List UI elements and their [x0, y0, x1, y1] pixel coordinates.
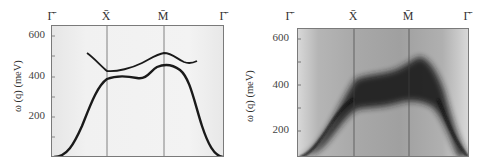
left-dispersion-curves: [52, 26, 224, 157]
right-plot-area: [297, 28, 469, 157]
right-point-gamma-start: Γ̄: [281, 9, 297, 24]
left-y-tick-600: 600: [21, 28, 45, 40]
left-plot-area: [51, 25, 224, 157]
right-point-gamma-end: Γ̄: [459, 9, 475, 24]
right-y-tick-200: 200: [265, 123, 289, 135]
right-y-axis-label: ω (q) (meV): [244, 70, 255, 122]
left-chart: ω (q) (meV) 600 400 200 Γ̄ X̄ M̄ Γ̄: [0, 0, 241, 166]
left-point-gamma-end: Γ̄: [215, 9, 231, 24]
right-point-m: M̄: [400, 9, 416, 24]
right-y-tick-600: 600: [265, 31, 289, 43]
left-point-x: X̄: [98, 9, 114, 24]
left-y-axis-label: ω (q) (meV): [12, 60, 23, 112]
right-y-tick-400: 400: [265, 78, 289, 90]
right-chart: ω (q) (meV) 600 400 200 Γ̄ X̄ M̄ Γ̄: [241, 0, 482, 166]
right-intensity-map: [298, 29, 469, 157]
left-point-gamma-start: Γ̄: [43, 9, 59, 24]
left-y-tick-200: 200: [21, 109, 45, 121]
right-point-x: X̄: [345, 9, 361, 24]
left-y-tick-400: 400: [21, 69, 45, 81]
left-point-m: M̄: [155, 9, 171, 24]
